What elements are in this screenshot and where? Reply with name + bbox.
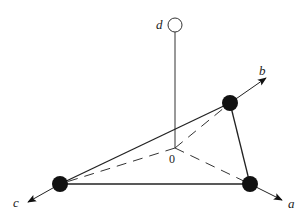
edge-b-a [230,103,250,184]
label-c: c [13,195,19,210]
label-a: a [288,196,295,211]
a-vertex-ball-icon [242,176,258,192]
dashed-origin-c [60,148,175,184]
d-open-circle-icon [168,18,182,32]
label-origin: 0 [169,152,175,166]
label-d: d [156,17,163,32]
label-b: b [259,63,266,78]
dashed-origin-a [175,148,250,184]
b-vertex-ball-icon [222,95,238,111]
c-vertex-ball-icon [52,176,68,192]
tetrahedron-diagram: d b c a 0 [0,0,304,217]
edge-c-b [60,103,230,184]
